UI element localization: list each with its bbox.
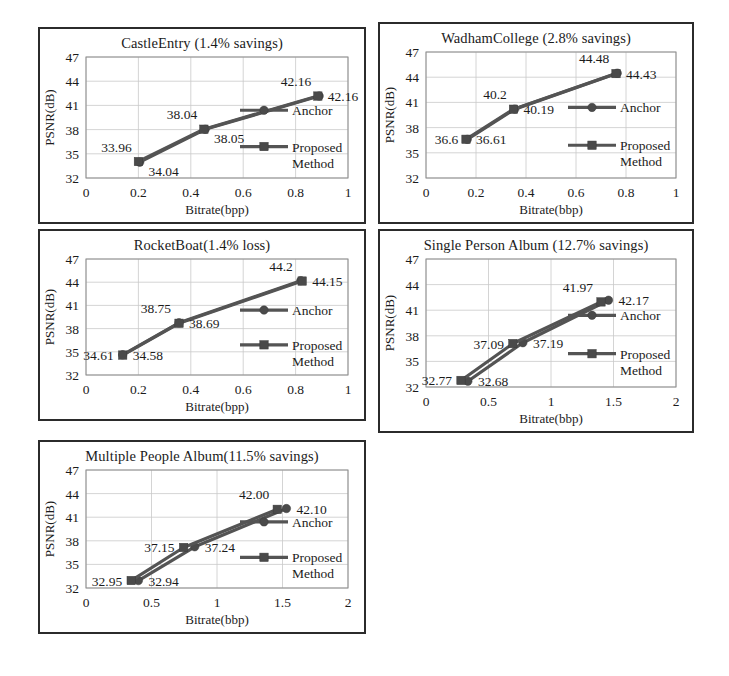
- data-point-label: 40.2: [483, 87, 507, 102]
- legend-marker-circle: [588, 311, 596, 319]
- legend-label-proposed-line1[interactable]: Proposed: [620, 347, 670, 362]
- legend-label-proposed-line1[interactable]: Proposed: [620, 138, 670, 153]
- y-tick-label: 41: [406, 303, 420, 318]
- y-tick-label: 32: [406, 380, 420, 395]
- y-tick-label: 38: [406, 121, 420, 136]
- y-axis-label: PSNR(dB): [382, 295, 397, 351]
- y-tick-label: 44: [66, 275, 80, 290]
- x-tick-label: 2: [673, 394, 680, 409]
- data-point-label: 40.19: [524, 102, 555, 117]
- data-point-marker-square: [597, 298, 605, 306]
- data-point-label: 38.75: [141, 301, 172, 316]
- data-point-label: 38.69: [189, 316, 220, 331]
- data-point-label: 44.15: [312, 274, 343, 289]
- legend-marker-square: [260, 142, 268, 150]
- data-point-label: 34.61: [83, 348, 113, 363]
- data-point-marker-square: [127, 576, 135, 584]
- x-axis-label: Bitrate(bbp): [185, 612, 249, 627]
- legend-marker-square: [588, 141, 596, 149]
- data-point-label: 32.68: [478, 374, 509, 389]
- data-point-label: 44.48: [579, 51, 610, 66]
- x-axis-label: Bitrate(bbp): [519, 202, 583, 217]
- x-tick-label: 2: [345, 595, 352, 610]
- data-point-marker-square: [273, 505, 281, 513]
- data-point-label: 33.96: [101, 140, 132, 155]
- data-point-label: 32.77: [422, 373, 453, 388]
- y-tick-label: 38: [66, 534, 80, 549]
- x-tick-label: 1: [548, 394, 555, 409]
- chart-panel-single-person-album: Single Person Album (12.7% savings)47444…: [378, 229, 694, 433]
- x-tick-label: 0.6: [235, 382, 252, 397]
- y-tick-label: 41: [66, 298, 80, 313]
- legend-label-proposed-line2[interactable]: Method: [620, 363, 662, 378]
- x-axis-label: Bitrate(bbp): [519, 411, 583, 426]
- x-tick-label: 0: [83, 595, 90, 610]
- legend-marker-circle: [260, 518, 268, 526]
- x-tick-label: 0: [83, 382, 90, 397]
- data-point-label: 38.05: [214, 131, 245, 146]
- chart-panel-castle-entry: CastleEntry (1.4% savings)47444138353200…: [38, 27, 366, 224]
- x-tick-label: 0.4: [182, 382, 199, 397]
- data-point-label: 37.09: [474, 337, 505, 352]
- y-tick-label: 41: [406, 95, 420, 110]
- x-tick-label: 0: [83, 185, 90, 200]
- legend-marker-square: [260, 341, 268, 349]
- legend-label-proposed-line1[interactable]: Proposed: [292, 550, 342, 565]
- data-point-label: 38.04: [167, 107, 198, 122]
- legend-label-anchor[interactable]: Anchor: [292, 303, 333, 318]
- y-axis-label: PSNR(dB): [42, 501, 57, 557]
- data-point-marker-circle: [604, 296, 612, 304]
- x-tick-label: 0.8: [287, 185, 304, 200]
- chart-panel-wadham-college: WadhamCollege (2.8% savings)474441383532…: [378, 22, 694, 224]
- legend-label-anchor[interactable]: Anchor: [620, 100, 661, 115]
- chart-plot-single-person-album: 47444138353200.511.52Bitrate(bbp)PSNR(dB…: [380, 231, 692, 431]
- y-tick-label: 35: [66, 147, 80, 162]
- x-tick-label: 0.4: [518, 185, 535, 200]
- y-tick-label: 44: [406, 278, 420, 293]
- y-tick-label: 47: [66, 463, 80, 478]
- y-tick-label: 44: [66, 487, 80, 502]
- chart-plot-wadham-college: 47444138353200.20.40.60.81Bitrate(bbp)PS…: [380, 24, 692, 222]
- chart-plot-multiple-people-album: 47444138353200.511.52Bitrate(bbp)PSNR(dB…: [40, 442, 364, 632]
- legend-label-proposed-line2[interactable]: Method: [292, 354, 334, 369]
- y-tick-label: 44: [406, 70, 420, 85]
- legend-label-proposed-line2[interactable]: Method: [620, 154, 662, 169]
- x-tick-label: 0.6: [235, 185, 252, 200]
- y-tick-label: 41: [66, 510, 80, 525]
- data-point-label: 44.43: [626, 67, 657, 82]
- data-point-marker-square: [118, 351, 126, 359]
- y-tick-label: 35: [406, 354, 420, 369]
- y-tick-label: 38: [66, 322, 80, 337]
- data-point-label: 36.6: [435, 132, 459, 147]
- legend-marker-circle: [260, 306, 268, 314]
- data-point-marker-square: [509, 105, 517, 113]
- legend-label-anchor[interactable]: Anchor: [292, 515, 333, 530]
- legend-label-anchor[interactable]: Anchor: [620, 308, 661, 323]
- chart-plot-castle-entry: 47444138353200.20.40.60.81Bitrate(bpp)PS…: [40, 29, 364, 222]
- legend-label-proposed-line1[interactable]: Proposed: [292, 338, 342, 353]
- data-point-label: 34.58: [133, 348, 164, 363]
- x-tick-label: 0: [423, 394, 430, 409]
- data-point-label: 44.2: [269, 259, 293, 274]
- y-tick-label: 47: [66, 252, 80, 267]
- x-tick-label: 0.5: [143, 595, 160, 610]
- chart-panel-rocket-boat: RocketBoat(1.4% loss)47444138353200.20.4…: [38, 229, 366, 421]
- legend-label-proposed-line1[interactable]: Proposed: [292, 140, 342, 155]
- x-tick-label: 0.4: [182, 185, 199, 200]
- y-tick-label: 38: [66, 123, 80, 138]
- x-tick-label: 0: [423, 185, 430, 200]
- y-tick-label: 32: [66, 171, 80, 186]
- y-axis-label: PSNR(dB): [382, 87, 397, 143]
- data-point-label: 42.00: [239, 487, 270, 502]
- x-tick-label: 1: [345, 185, 352, 200]
- legend-label-proposed-line2[interactable]: Method: [292, 156, 334, 171]
- x-axis-label: Bitrate(bpp): [185, 202, 249, 217]
- y-tick-label: 35: [406, 146, 420, 161]
- chart-plot-rocket-boat: 47444138353200.20.40.60.81Bitrate(bpp)PS…: [40, 231, 364, 419]
- legend-label-anchor[interactable]: Anchor: [292, 103, 333, 118]
- data-point-label: 42.16: [281, 74, 312, 89]
- legend-label-proposed-line2[interactable]: Method: [292, 566, 334, 581]
- legend-marker-square: [260, 553, 268, 561]
- data-point-marker-square: [175, 319, 183, 327]
- y-axis-label: PSNR(dB): [42, 89, 57, 145]
